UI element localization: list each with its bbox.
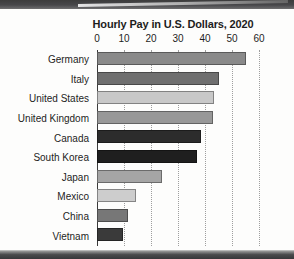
page-edge-glint	[78, 0, 288, 7]
category-label: Germany	[0, 50, 93, 70]
x-tick-20: 20	[145, 33, 156, 44]
bar-south-korea	[97, 150, 197, 163]
bar-row	[97, 109, 259, 129]
page-edge-top-band	[0, 0, 294, 9]
bar-row	[97, 148, 259, 168]
bar-row	[97, 187, 259, 207]
bar-germany	[97, 52, 246, 65]
page-edge-bottom-band	[0, 251, 294, 259]
gridline-60	[259, 50, 260, 246]
category-label: South Korea	[0, 148, 93, 168]
bar-canada	[97, 130, 201, 143]
bar-united-kingdom	[97, 111, 213, 124]
chart-card: Hourly Pay in U.S. Dollars, 2020 0102030…	[0, 0, 294, 259]
category-label: United States	[0, 89, 93, 109]
bar-italy	[97, 72, 219, 85]
bar-mexico	[97, 189, 136, 202]
bar-row	[97, 70, 259, 90]
chart-title: Hourly Pay in U.S. Dollars, 2020	[0, 18, 294, 30]
x-tick-40: 40	[199, 33, 210, 44]
bar-row	[97, 168, 259, 188]
category-label: United Kingdom	[0, 109, 93, 129]
bar-china	[97, 209, 128, 222]
category-label: Italy	[0, 70, 93, 90]
chart-title-text: Hourly Pay in U.S. Dollars, 2020	[41, 18, 254, 30]
bar-row	[97, 207, 259, 227]
bar-united-states	[97, 91, 214, 104]
category-label: China	[0, 207, 93, 227]
x-axis-tick-labels: 0102030405060	[0, 33, 294, 47]
bar-japan	[97, 170, 162, 183]
x-tick-10: 10	[118, 33, 129, 44]
bar-chart: Hourly Pay in U.S. Dollars, 2020 0102030…	[0, 9, 294, 251]
bar-vietnam	[97, 228, 123, 241]
category-label: Japan	[0, 168, 93, 188]
x-tick-60: 60	[253, 33, 264, 44]
bar-series	[97, 50, 259, 246]
category-label: Vietnam	[0, 226, 93, 246]
x-tick-30: 30	[172, 33, 183, 44]
category-label: Mexico	[0, 187, 93, 207]
bar-row	[97, 128, 259, 148]
bar-row	[97, 89, 259, 109]
x-tick-50: 50	[226, 33, 237, 44]
x-tick-0: 0	[94, 33, 100, 44]
category-labels: GermanyItalyUnited StatesUnited KingdomC…	[0, 50, 93, 246]
bar-row	[97, 226, 259, 246]
bar-row	[97, 50, 259, 70]
category-label: Canada	[0, 128, 93, 148]
